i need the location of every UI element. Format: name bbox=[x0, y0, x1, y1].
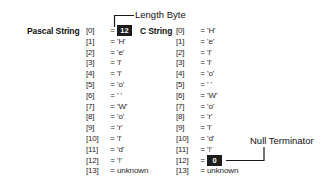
highlighted-byte-value: 12 bbox=[117, 25, 132, 36]
equals-sign: = bbox=[108, 48, 117, 59]
equals-sign: = bbox=[108, 134, 117, 145]
byte-row: [12]='!' bbox=[86, 156, 148, 167]
byte-value: 'r' bbox=[117, 123, 122, 134]
byte-value: unknown bbox=[117, 166, 148, 177]
byte-row: [0]=12 bbox=[86, 26, 148, 37]
byte-row: [3]='l' bbox=[176, 58, 238, 69]
byte-index: [10] bbox=[176, 134, 198, 145]
byte-row: [1]='e' bbox=[176, 37, 238, 48]
byte-value: 'l' bbox=[207, 123, 212, 134]
byte-row: [2]='l' bbox=[176, 48, 238, 59]
byte-value: 'd' bbox=[207, 134, 214, 145]
byte-index: [11] bbox=[176, 145, 198, 156]
byte-row: [7]='W' bbox=[86, 102, 148, 113]
byte-value: 'e' bbox=[117, 48, 124, 59]
byte-value: 'H' bbox=[117, 37, 126, 48]
pascal-string-column: [0]=12[1]='H'[2]='e'[3]='l'[4]='l'[5]='o… bbox=[86, 26, 148, 177]
byte-row: [8]='r' bbox=[176, 112, 238, 123]
byte-row: [5]='o' bbox=[86, 80, 148, 91]
byte-value: unknown bbox=[207, 166, 238, 177]
equals-sign: = bbox=[198, 37, 207, 48]
equals-sign: = bbox=[108, 58, 117, 69]
byte-value: 'o' bbox=[117, 80, 124, 91]
equals-sign: = bbox=[108, 166, 117, 177]
byte-value: ' ' bbox=[207, 80, 212, 91]
equals-sign: = bbox=[198, 58, 207, 69]
equals-sign: = bbox=[108, 69, 117, 80]
equals-sign: = bbox=[108, 112, 117, 123]
byte-index: [5] bbox=[176, 80, 198, 91]
byte-index: [9] bbox=[86, 123, 108, 134]
byte-row: [10]='d' bbox=[176, 134, 238, 145]
highlighted-byte-value: 0 bbox=[207, 155, 222, 166]
byte-value: 'o' bbox=[207, 69, 214, 80]
equals-sign: = bbox=[198, 80, 207, 91]
byte-row: [13]=unknown bbox=[176, 166, 238, 177]
byte-index: [12] bbox=[86, 156, 108, 167]
byte-index: [8] bbox=[86, 112, 108, 123]
byte-row: [1]='H' bbox=[86, 37, 148, 48]
byte-row: [0]='H' bbox=[176, 26, 238, 37]
byte-index: [2] bbox=[176, 48, 198, 59]
byte-index: [2] bbox=[86, 48, 108, 59]
byte-index: [4] bbox=[86, 69, 108, 80]
equals-sign: = bbox=[108, 123, 117, 134]
byte-row: [9]='r' bbox=[86, 123, 148, 134]
byte-index: [8] bbox=[176, 112, 198, 123]
c-string-column: [0]='H'[1]='e'[2]='l'[3]='l'[4]='o'[5]='… bbox=[176, 26, 238, 177]
byte-value: 'l' bbox=[117, 134, 122, 145]
equals-sign: = bbox=[198, 123, 207, 134]
byte-row: [7]='o' bbox=[176, 102, 238, 113]
length-byte-annotation: Length Byte bbox=[135, 9, 186, 20]
equals-sign: = bbox=[108, 91, 117, 102]
equals-sign: = bbox=[198, 112, 207, 123]
byte-row: [4]='o' bbox=[176, 69, 238, 80]
byte-row: [4]='l' bbox=[86, 69, 148, 80]
byte-row: [3]='l' bbox=[86, 58, 148, 69]
byte-value: 'l' bbox=[117, 58, 122, 69]
byte-row: [5]=' ' bbox=[176, 80, 238, 91]
byte-index: [3] bbox=[86, 58, 108, 69]
equals-sign: = bbox=[198, 69, 207, 80]
equals-sign: = bbox=[198, 102, 207, 113]
byte-row: [11]='d' bbox=[86, 145, 148, 156]
byte-value: 'l' bbox=[207, 48, 212, 59]
byte-index: [9] bbox=[176, 123, 198, 134]
byte-value: 'e' bbox=[207, 37, 214, 48]
byte-index: [0] bbox=[176, 26, 198, 37]
byte-index: [0] bbox=[86, 26, 108, 37]
equals-sign: = bbox=[198, 145, 207, 156]
equals-sign: = bbox=[108, 145, 117, 156]
byte-row: [6]=' ' bbox=[86, 91, 148, 102]
byte-value: 'W' bbox=[207, 91, 217, 102]
byte-value: 'W' bbox=[117, 102, 127, 113]
byte-value: 'l' bbox=[207, 58, 212, 69]
byte-value: 'r' bbox=[207, 112, 212, 123]
equals-sign: = bbox=[198, 48, 207, 59]
null-terminator-annotation: Null Terminator bbox=[250, 135, 314, 146]
byte-row: [11]='!' bbox=[176, 145, 238, 156]
byte-index: [13] bbox=[86, 166, 108, 177]
byte-index: [11] bbox=[86, 145, 108, 156]
byte-index: [6] bbox=[176, 91, 198, 102]
equals-sign: = bbox=[108, 102, 117, 113]
byte-index: [7] bbox=[176, 102, 198, 113]
equals-sign: = bbox=[198, 91, 207, 102]
equals-sign: = bbox=[198, 134, 207, 145]
byte-index: [7] bbox=[86, 102, 108, 113]
byte-index: [10] bbox=[86, 134, 108, 145]
equals-sign: = bbox=[198, 156, 207, 167]
byte-value: '!' bbox=[207, 145, 212, 156]
byte-index: [6] bbox=[86, 91, 108, 102]
byte-index: [4] bbox=[176, 69, 198, 80]
byte-value: 'o' bbox=[207, 102, 214, 113]
byte-index: [5] bbox=[86, 80, 108, 91]
byte-row: [12]=0 bbox=[176, 156, 238, 167]
equals-sign: = bbox=[108, 80, 117, 91]
byte-row: [6]='W' bbox=[176, 91, 238, 102]
equals-sign: = bbox=[108, 37, 117, 48]
equals-sign: = bbox=[108, 156, 117, 167]
byte-index: [3] bbox=[176, 58, 198, 69]
byte-row: [2]='e' bbox=[86, 48, 148, 59]
equals-sign: = bbox=[198, 166, 207, 177]
